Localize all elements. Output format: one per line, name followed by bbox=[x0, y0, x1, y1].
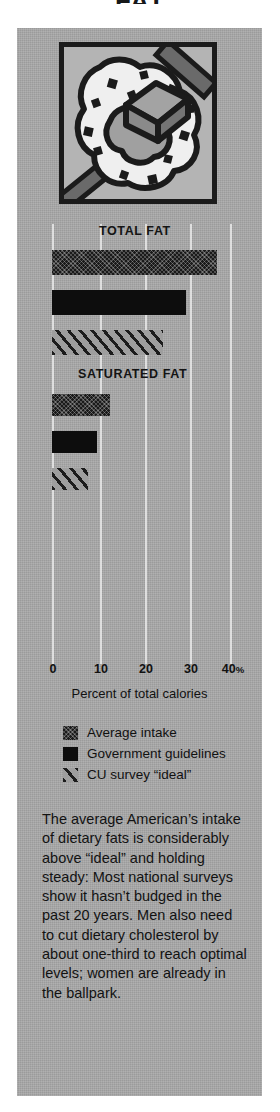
group-label-total-fat: TOTAL FAT bbox=[99, 224, 171, 238]
body-paragraph: The average American’s intake of dietary… bbox=[42, 810, 247, 1003]
page-title: FAT bbox=[0, 0, 280, 4]
legend-item-government-guidelines: Government guidelines bbox=[63, 743, 263, 764]
infographic-page: FAT bbox=[0, 0, 280, 1112]
legend-swatch-cu-survey-ideal-icon bbox=[63, 768, 78, 782]
butter-on-bread-icon bbox=[64, 47, 212, 199]
gridline-30 bbox=[190, 224, 192, 664]
x-tick-30: 30 bbox=[184, 662, 198, 676]
x-tick-40: 40% bbox=[222, 662, 244, 676]
chart-legend: Average intake Government guidelines CU … bbox=[63, 722, 263, 785]
fat-bar-chart: TOTAL FAT SATURATED FAT 0 10 20 30 40% P… bbox=[17, 224, 262, 694]
x-tick-20: 20 bbox=[139, 662, 153, 676]
legend-item-cu-survey-ideal: CU survey “ideal” bbox=[63, 764, 263, 785]
x-axis-ticks: 0 10 20 30 40% bbox=[17, 662, 262, 682]
group-label-saturated-fat: SATURATED FAT bbox=[78, 367, 187, 381]
illustration bbox=[59, 42, 217, 204]
legend-item-average-intake: Average intake bbox=[63, 722, 263, 743]
gridline-40 bbox=[230, 224, 232, 664]
bar-saturated-fat-average-intake bbox=[52, 394, 110, 416]
illustration-frame bbox=[59, 42, 217, 204]
bar-total-fat-cu-survey-ideal bbox=[52, 330, 163, 355]
legend-label-average-intake: Average intake bbox=[87, 726, 177, 740]
legend-swatch-government-guidelines-icon bbox=[63, 747, 78, 761]
bar-total-fat-government-guidelines bbox=[52, 290, 186, 315]
x-tick-0: 0 bbox=[50, 662, 57, 676]
bar-saturated-fat-cu-survey-ideal bbox=[52, 468, 88, 490]
bar-total-fat-average-intake bbox=[52, 250, 217, 275]
infographic-panel: TOTAL FAT SATURATED FAT 0 10 20 30 40% P… bbox=[17, 28, 262, 1096]
x-axis-title: Percent of total calories bbox=[17, 686, 262, 701]
legend-label-government-guidelines: Government guidelines bbox=[87, 747, 226, 761]
legend-swatch-average-intake-icon bbox=[63, 726, 78, 740]
bar-saturated-fat-government-guidelines bbox=[52, 431, 97, 453]
legend-label-cu-survey-ideal: CU survey “ideal” bbox=[87, 768, 191, 782]
body-text: The average American’s intake of dietary… bbox=[42, 810, 247, 1003]
x-tick-10: 10 bbox=[94, 662, 108, 676]
